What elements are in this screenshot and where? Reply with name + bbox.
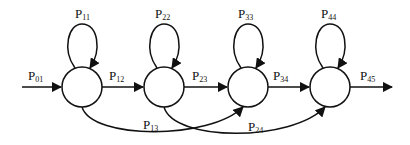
- self-loop-p22-arrow: [150, 24, 179, 68]
- self-loop-p44-arrow: [316, 24, 345, 68]
- label-p33: P33: [238, 6, 253, 22]
- self-loop-p33-arrow: [234, 24, 263, 68]
- state-4: [310, 67, 350, 107]
- self-loop-p11-arrow: [68, 24, 97, 68]
- markov-chain-diagram: P01 P11 P12 P22 P23 P33 P34 P44 P45 P13 …: [0, 0, 410, 145]
- state-1: [62, 67, 102, 107]
- label-p24: P24: [248, 119, 263, 135]
- state-2: [144, 67, 184, 107]
- label-p12: P12: [109, 68, 124, 84]
- label-p45: P45: [360, 68, 375, 84]
- label-p11: P11: [75, 6, 90, 22]
- label-p23: P23: [192, 68, 207, 84]
- label-p22: P22: [155, 6, 170, 22]
- label-p01: P01: [28, 68, 43, 84]
- label-p13: P13: [143, 117, 158, 133]
- label-p44: P44: [321, 6, 336, 22]
- state-3: [228, 67, 268, 107]
- transition-p13-arrow: [82, 107, 243, 132]
- label-p34: P34: [273, 68, 288, 84]
